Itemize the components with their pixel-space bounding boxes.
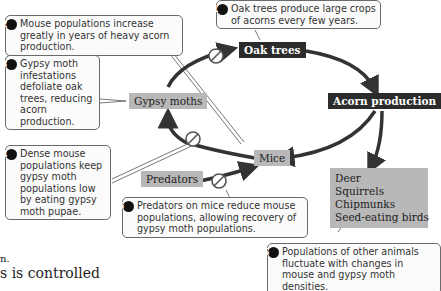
number-badge: 4 <box>6 149 17 160</box>
animal-squirrels: Squirrels <box>335 185 423 198</box>
arrow-mice-to-moths <box>168 118 255 158</box>
callout-1: 1Oak trees produce large crops of acorns… <box>216 0 381 29</box>
node-gypsy-moths: Gypsy moths <box>129 93 207 109</box>
animal-seed-eating-birds: Seed-eating birds <box>335 211 423 224</box>
arrow-oak-to-acorn <box>306 51 374 88</box>
number-badge: 3 <box>6 59 17 70</box>
number-badge: 5 <box>123 201 134 212</box>
no-sign-icon <box>212 174 226 188</box>
callout-4: 4Dense mouse populations keep gypsy moth… <box>5 145 111 220</box>
number-badge: 1 <box>217 4 228 15</box>
node-other-animals: Deer Squirrels Chipmunks Seed-eating bir… <box>330 168 428 228</box>
inhibit-icons <box>186 49 226 188</box>
callout-3: 3Gypsy moth infestations defoliate oak t… <box>5 55 100 130</box>
node-oak-trees: Oak trees <box>239 42 306 58</box>
node-acorn-production: Acorn production <box>328 93 441 109</box>
arrow-acorn-to-animals <box>372 111 382 165</box>
background-text-line2: s is controlled <box>0 265 100 281</box>
callout-2: 2Mouse populations increase greatly in y… <box>5 15 183 56</box>
background-text-line1: n. <box>0 253 10 264</box>
no-sign-icon <box>186 132 200 146</box>
ecology-diagram: Oak trees Acorn production Mice Gypsy mo… <box>0 0 441 291</box>
arrow-acorn-to-mice <box>284 111 375 158</box>
node-predators: Predators <box>141 171 203 187</box>
number-badge: 2 <box>6 19 17 30</box>
animal-chipmunks: Chipmunks <box>335 198 423 211</box>
no-sign-icon <box>209 49 223 63</box>
number-badge: 6 <box>268 247 279 258</box>
callout-5: 5Predators on mice reduce mouse populati… <box>122 197 308 238</box>
animal-deer: Deer <box>335 172 423 185</box>
node-mice: Mice <box>254 150 290 166</box>
callout-6: 6Populations of other animals fluctuate … <box>267 243 441 291</box>
